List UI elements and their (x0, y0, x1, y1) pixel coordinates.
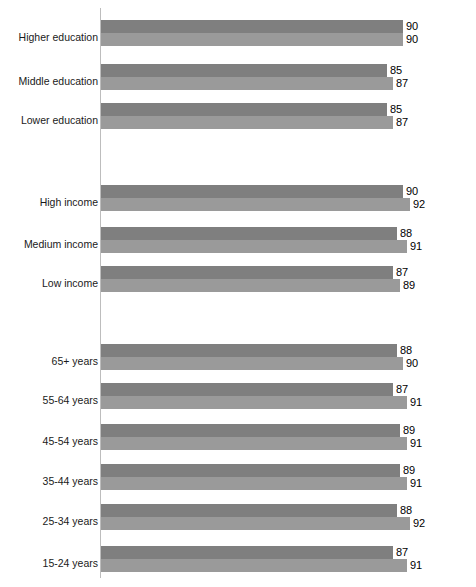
bar-value-label-series-2: 91 (407, 396, 422, 409)
category-label: Middle education (0, 75, 98, 87)
category-label: High income (0, 196, 98, 208)
bar-value-label-series-2: 91 (407, 437, 422, 450)
bar-series-1 (101, 227, 397, 240)
category-label: 45-54 years (0, 435, 98, 447)
bar-value-label-series-2: 91 (407, 240, 422, 253)
bar-value-label-series-1: 89 (400, 424, 415, 437)
bar-series-2 (101, 77, 393, 90)
bar-series-2 (101, 33, 403, 46)
bar-series-1 (101, 504, 397, 517)
bar-series-2 (101, 240, 407, 253)
bar-value-label-series-2: 92 (410, 198, 425, 211)
category-label: 35-44 years (0, 475, 98, 487)
bar-series-2 (101, 559, 407, 572)
bar-series-2 (101, 517, 410, 530)
bar-value-label-series-1: 87 (393, 383, 408, 396)
bar-value-label-series-1: 90 (403, 185, 418, 198)
category-label: Medium income (0, 238, 98, 250)
bar-series-2 (101, 437, 407, 450)
bar-value-label-series-1: 88 (397, 504, 412, 517)
bar-series-1 (101, 464, 400, 477)
bar-series-2 (101, 198, 410, 211)
bar-series-2 (101, 477, 407, 490)
bar-series-2 (101, 279, 400, 292)
bar-series-1 (101, 266, 393, 279)
bar-value-label-series-1: 87 (393, 266, 408, 279)
bar-series-1 (101, 424, 400, 437)
bar-value-label-series-2: 87 (393, 77, 408, 90)
bar-series-1 (101, 383, 393, 396)
bar-value-label-series-2: 90 (403, 357, 418, 370)
bar-value-label-series-1: 88 (397, 227, 412, 240)
bar-value-label-series-2: 91 (407, 559, 422, 572)
bar-value-label-series-1: 89 (400, 464, 415, 477)
bar-series-1 (101, 344, 397, 357)
category-label: 65+ years (0, 355, 98, 367)
bar-value-label-series-2: 89 (400, 279, 415, 292)
category-label: 25-34 years (0, 515, 98, 527)
bar-value-label-series-1: 85 (387, 103, 402, 116)
plot-area: Higher education9090Middle education8587… (0, 0, 476, 587)
bar-value-label-series-2: 92 (410, 517, 425, 530)
bar-value-label-series-2: 90 (403, 33, 418, 46)
bar-series-2 (101, 357, 403, 370)
bar-series-1 (101, 103, 387, 116)
category-label: Lower education (0, 114, 98, 126)
bar-series-1 (101, 185, 403, 198)
category-label: 15-24 years (0, 557, 98, 569)
bar-series-2 (101, 396, 407, 409)
bar-series-2 (101, 116, 393, 129)
bar-series-1 (101, 546, 393, 559)
bar-series-1 (101, 64, 387, 77)
category-label: Higher education (0, 31, 98, 43)
category-label: Low income (0, 277, 98, 289)
bar-value-label-series-1: 88 (397, 344, 412, 357)
bar-value-label-series-2: 91 (407, 477, 422, 490)
category-label: 55-64 years (0, 394, 98, 406)
bar-value-label-series-2: 87 (393, 116, 408, 129)
bar-value-label-series-1: 90 (403, 20, 418, 33)
bar-value-label-series-1: 85 (387, 64, 402, 77)
bar-series-1 (101, 20, 403, 33)
bar-value-label-series-1: 87 (393, 546, 408, 559)
grouped-horizontal-bar-chart: Higher education9090Middle education8587… (0, 0, 476, 587)
